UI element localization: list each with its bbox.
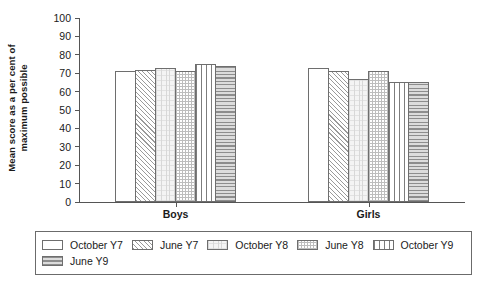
y-axis-tick-100: 100 [49, 13, 79, 23]
chart-legend: October Y7June Y7October Y8June Y8Octobe… [35, 231, 472, 275]
legend-label: June Y9 [70, 255, 108, 267]
legend-swatch-icon [373, 240, 394, 250]
bar-girls-october-y7 [308, 68, 329, 202]
y-axis-title: Mean score as a per cent of maximum poss… [0, 0, 36, 215]
legend-swatch-icon [207, 240, 228, 250]
y-axis-tick-60: 60 [49, 87, 79, 97]
legend-item-october-y7[interactable]: October Y7 [42, 239, 123, 251]
x-axis-tick-girls [369, 202, 370, 207]
y-axis-tick-label: 50 [49, 105, 75, 115]
bar-boys-june-y8 [175, 71, 196, 202]
y-axis-tick-label: 0 [49, 197, 75, 207]
legend-swatch-icon [42, 240, 63, 250]
bar-girls-june-y7 [328, 71, 349, 202]
legend-row: October Y7June Y7October Y8June Y8Octobe… [42, 237, 471, 253]
x-axis-line [79, 202, 465, 203]
legend-swatch-icon [297, 240, 318, 250]
legend-swatch-icon [132, 240, 153, 250]
legend-label: October Y9 [401, 239, 454, 251]
y-axis-tick-40: 40 [49, 123, 79, 133]
y-axis-tick-label: 20 [49, 160, 75, 170]
bar-girls-june-y9 [408, 82, 429, 202]
bar-girls-october-y8 [348, 79, 369, 202]
y-axis-tick-90: 90 [49, 31, 79, 41]
y-axis-tick-label: 90 [49, 31, 75, 41]
y-axis-tick-10: 10 [49, 179, 79, 189]
bar-chart-figure: Mean score as a per cent of maximum poss… [0, 0, 481, 287]
bar-boys-june-y9 [215, 66, 236, 202]
bar-groups [79, 18, 465, 202]
bar-group-girls [308, 18, 429, 202]
legend-label: October Y8 [235, 239, 288, 251]
y-axis-title-line1: Mean score as a per cent of [6, 44, 17, 171]
legend-item-october-y9[interactable]: October Y9 [373, 239, 454, 251]
y-axis-tick-label: 60 [49, 87, 75, 97]
bar-boys-october-y9 [195, 64, 216, 202]
legend-item-june-y9[interactable]: June Y9 [42, 255, 108, 267]
y-axis-tick-20: 20 [49, 160, 79, 170]
y-axis-tick-30: 30 [49, 142, 79, 152]
y-axis-tick-label: 40 [49, 123, 75, 133]
legend-item-june-y7[interactable]: June Y7 [132, 239, 198, 251]
bar-boys-october-y7 [115, 71, 136, 202]
y-axis-tick-label: 100 [49, 13, 75, 23]
y-axis-tick-0: 0 [49, 197, 79, 207]
plot-area: 1009080706050403020100 BoysGirls [79, 18, 465, 202]
legend-row: June Y9 [42, 253, 471, 269]
y-axis-tick-label: 70 [49, 68, 75, 78]
x-axis-tick-boys [176, 202, 177, 207]
bar-girls-june-y8 [368, 71, 389, 202]
legend-label: June Y8 [325, 239, 363, 251]
y-axis-tick-label: 30 [49, 142, 75, 152]
y-axis-tick-label: 80 [49, 50, 75, 60]
y-axis-tick-80: 80 [49, 50, 79, 60]
bar-boys-october-y8 [155, 68, 176, 202]
legend-label: October Y7 [70, 239, 123, 251]
bar-group-boys [115, 18, 236, 202]
legend-item-october-y8[interactable]: October Y8 [207, 239, 288, 251]
bar-boys-june-y7 [135, 70, 156, 202]
y-axis-tick-label: 10 [49, 179, 75, 189]
y-axis-title-line2: maximum possible [18, 44, 30, 171]
x-axis-label-boys: Boys [163, 208, 189, 220]
legend-swatch-icon [42, 256, 63, 266]
y-axis-tick-50: 50 [49, 105, 79, 115]
legend-item-june-y8[interactable]: June Y8 [297, 239, 363, 251]
bar-girls-october-y9 [388, 82, 409, 202]
legend-label: June Y7 [160, 239, 198, 251]
y-axis-tick-70: 70 [49, 68, 79, 78]
x-axis-label-girls: Girls [357, 208, 381, 220]
